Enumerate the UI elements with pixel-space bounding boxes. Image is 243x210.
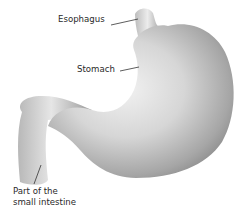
small-intestine-label-line-2: small intestine [13, 197, 76, 208]
stomach-leader-line [120, 67, 139, 71]
stomach-illustration [0, 0, 243, 210]
esophagus-label: Esophagus [58, 14, 105, 25]
stomach-label: Stomach [77, 64, 115, 75]
stomach-body-shape [48, 24, 234, 178]
small-intestine-label-line-1: Part of the [13, 186, 76, 197]
esophagus-leader-line [111, 19, 138, 25]
small-intestine-label: Part of the small intestine [13, 186, 76, 208]
stomach-diagram: Esophagus Stomach Part of the small inte… [0, 0, 243, 210]
